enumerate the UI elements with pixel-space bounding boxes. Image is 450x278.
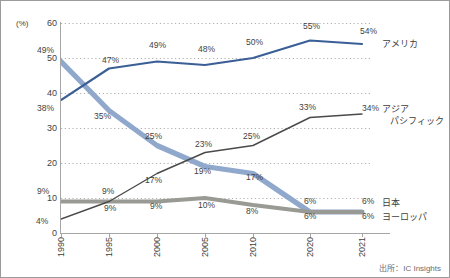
x-axis-tick-1995: 1995 [105, 237, 114, 257]
legend-label-asia-pacific-line2: パシフィック [390, 116, 444, 126]
legend-label-asia-pacific-line1: アジア [382, 104, 409, 114]
label-asia-1990: 4% [36, 217, 48, 226]
label-america-1990: 38% [37, 104, 54, 113]
x-axis-tick-2005: 2005 [201, 237, 210, 257]
label-europe-1995: 9% [102, 187, 114, 196]
y-axis-tick-40: 40 [23, 89, 57, 98]
y-axis-tick-60: 60 [23, 19, 57, 28]
x-axis-tick-2020: 2020 [306, 237, 315, 257]
label-asia-2000: 17% [145, 176, 162, 185]
label-asia-2005: 23% [195, 140, 212, 149]
label-japan-1990: 49% [37, 46, 54, 55]
y-axis-tick-50: 50 [23, 54, 57, 63]
legend-label-europe: ヨーロッパ [382, 212, 427, 222]
x-axis-tick-2000: 2000 [153, 237, 162, 257]
legend-label-america: アメリカ [382, 39, 418, 49]
label-asia-1995: 9% [104, 204, 116, 213]
label-america-2005: 48% [198, 45, 215, 54]
label-europe-2020: 6% [304, 212, 316, 221]
label-europe-2010: 8% [246, 207, 258, 216]
label-asia-2020: 33% [299, 103, 316, 112]
legend-label-japan: 日本 [382, 198, 400, 208]
label-japan-1995: 35% [94, 112, 111, 121]
label-europe-1990: 9% [37, 187, 49, 196]
y-axis-tick-30: 30 [23, 124, 57, 133]
label-america-2000: 49% [149, 41, 166, 50]
label-japan-2010: 17% [246, 173, 263, 182]
label-america-2021: 54% [360, 27, 377, 36]
label-america-2010: 50% [246, 38, 263, 47]
label-europe-2005: 10% [198, 201, 215, 210]
x-axis-tick-2010: 2010 [249, 237, 258, 257]
y-axis-tick-group: 60 50 40 30 20 10 0 [15, 1, 57, 278]
label-japan-2005: 19% [194, 167, 211, 176]
label-europe-2000: 9% [150, 202, 162, 211]
label-japan-2000: 25% [145, 132, 162, 141]
y-axis-tick-20: 20 [23, 159, 57, 168]
label-japan-2021: 6% [362, 197, 374, 206]
label-asia-2010: 25% [243, 132, 260, 141]
label-europe-2021: 6% [362, 212, 374, 221]
label-america-2020: 55% [303, 22, 320, 31]
label-asia-2021: 34% [362, 104, 379, 113]
source-note: 出所：IC Insights [379, 262, 441, 273]
y-axis-tick-0: 0 [23, 229, 57, 238]
x-axis-tick-2021: 2021 [358, 237, 367, 257]
x-axis-tick-1990: 1990 [57, 237, 66, 257]
label-america-1995: 47% [102, 56, 119, 65]
chart-container: (%) 60 50 40 30 20 10 0 1990 1995 2000 2… [0, 0, 450, 278]
label-japan-2020: 6% [304, 197, 316, 206]
